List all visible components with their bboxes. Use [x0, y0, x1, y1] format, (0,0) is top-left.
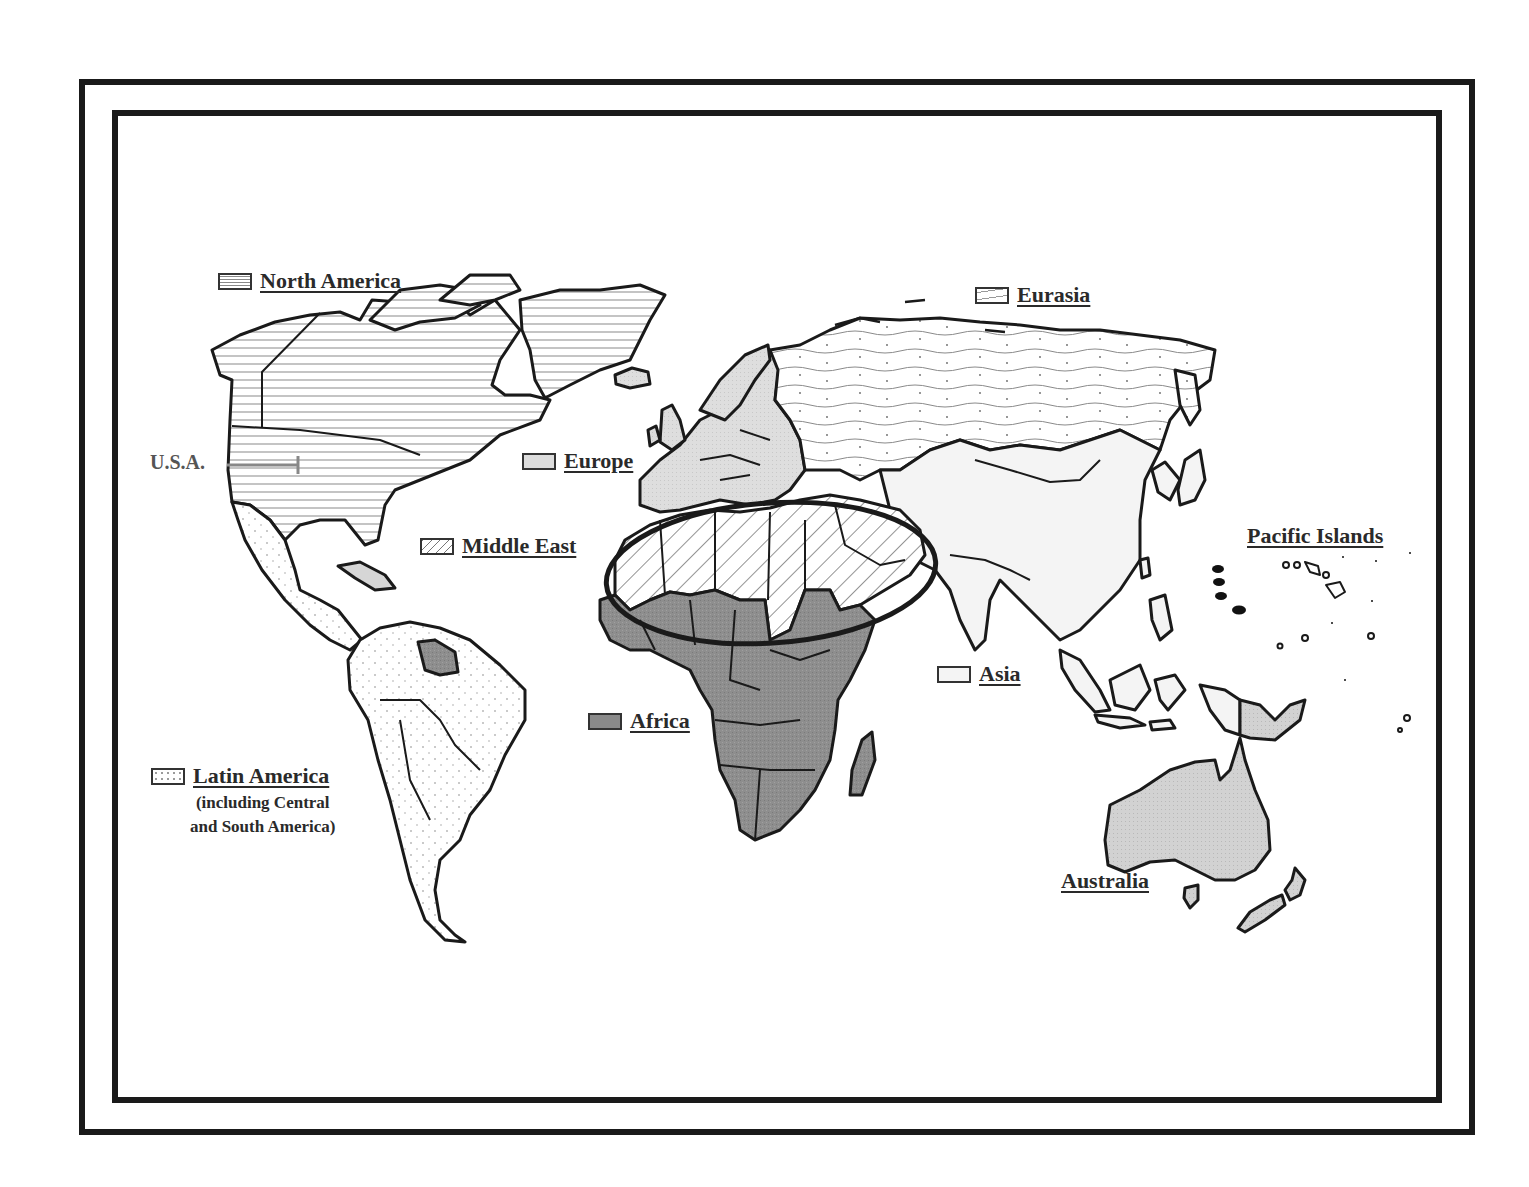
pacific-islands-dots [1212, 552, 1411, 681]
pattern-swatch-light-gray [522, 453, 556, 470]
legend-australia: Australia [1061, 870, 1149, 892]
label-middle-east: Middle East [462, 535, 576, 557]
region-madagascar [850, 732, 875, 795]
legend-asia: Asia [937, 663, 1021, 685]
latin-america-sublabel-line2: and South America) [190, 815, 335, 839]
legend-africa: Africa [588, 710, 690, 732]
label-usa: U.S.A. [150, 451, 205, 474]
label-africa: Africa [630, 710, 690, 732]
legend-eurasia: Eurasia [975, 284, 1090, 306]
pattern-swatch-dotted [151, 768, 185, 785]
region-australia [1105, 738, 1270, 880]
label-latin-america: Latin America [193, 765, 329, 787]
region-new-zealand [1285, 868, 1305, 900]
label-europe: Europe [564, 450, 633, 472]
world-map [0, 0, 1529, 1187]
label-north-america: North America [260, 270, 401, 292]
legend-middle-east: Middle East [420, 535, 576, 557]
legend-latin-america: Latin America [151, 765, 329, 787]
label-australia: Australia [1061, 870, 1149, 892]
pattern-swatch-dark-gray [588, 713, 622, 730]
legend-europe: Europe [522, 450, 633, 472]
pattern-swatch-very-light [937, 666, 971, 683]
legend-pacific-islands: Pacific Islands [1247, 525, 1383, 547]
label-asia: Asia [979, 663, 1021, 685]
latin-america-sublabel-line1: (including Central [190, 791, 335, 815]
pattern-swatch-horizontal-lines [218, 273, 252, 290]
label-pacific-islands: Pacific Islands [1247, 525, 1383, 547]
label-eurasia: Eurasia [1017, 284, 1090, 306]
latin-america-sublabel: (including Central and South America) [190, 791, 335, 839]
legend-north-america: North America [218, 270, 401, 292]
pattern-swatch-diagonal-hatch [420, 538, 454, 555]
pattern-swatch-wavy-dotted [975, 287, 1009, 304]
